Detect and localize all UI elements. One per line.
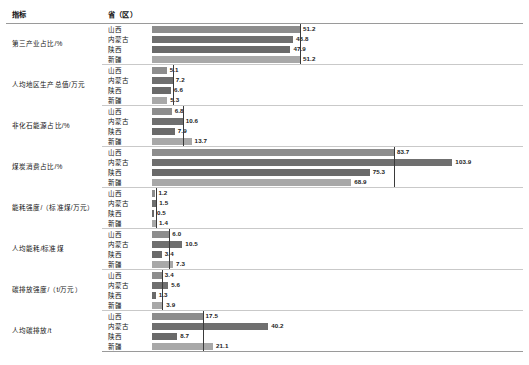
table-row: 碳排放强度/（t/万元）山西3.4 <box>6 270 523 281</box>
bar-cell: 68.9 <box>146 177 523 188</box>
indicator-label: 人均地区生产总值/万元 <box>6 65 102 106</box>
value-label: 10.6 <box>186 117 198 124</box>
value-label: 51.2 <box>303 55 315 62</box>
province-label: 内蒙古 <box>102 321 146 331</box>
province-label: 陕西 <box>102 290 146 300</box>
province-label: 陕西 <box>102 331 146 341</box>
province-label: 内蒙古 <box>102 280 146 290</box>
table-row: 人均地区生产总值/万元山西5.1 <box>6 65 523 76</box>
value-bar <box>152 241 182 248</box>
province-label: 山西 <box>102 229 146 240</box>
province-label: 山西 <box>102 188 146 199</box>
province-label: 陕西 <box>102 85 146 95</box>
column-header-indicator: 指标 <box>6 7 102 24</box>
value-bar <box>152 251 162 258</box>
value-bar <box>152 128 175 135</box>
value-label: 7.3 <box>176 260 185 267</box>
value-label: 51.2 <box>303 25 315 32</box>
province-label: 陕西 <box>102 249 146 259</box>
value-bar <box>152 159 452 166</box>
province-label: 新疆 <box>102 95 146 106</box>
province-label: 新疆 <box>102 136 146 147</box>
province-label: 内蒙古 <box>102 198 146 208</box>
province-label: 新疆 <box>102 54 146 65</box>
value-bar <box>152 56 300 63</box>
province-label: 新疆 <box>102 177 146 188</box>
table-row: 人均能耗/标准煤山西6.0 <box>6 229 523 240</box>
table-row: 人均碳排放/t山西17.5 <box>6 311 523 322</box>
value-label: 21.1 <box>216 342 228 349</box>
value-label: 5.1 <box>170 66 179 73</box>
value-bar <box>152 46 290 53</box>
value-bar <box>152 333 177 340</box>
value-label: 13.7 <box>195 137 207 144</box>
bar-cell: 1.4 <box>146 218 523 229</box>
province-label: 山西 <box>102 24 146 35</box>
reference-line <box>169 229 170 269</box>
province-label: 陕西 <box>102 208 146 218</box>
province-label: 内蒙古 <box>102 157 146 167</box>
province-label: 内蒙古 <box>102 75 146 85</box>
value-label: 3.4 <box>165 271 174 278</box>
province-label: 陕西 <box>102 126 146 136</box>
value-bar <box>152 97 167 104</box>
bar-cell: 3.4 <box>146 270 523 281</box>
value-label: 8.7 <box>180 332 189 339</box>
value-bar <box>152 282 168 289</box>
bar-cell: 103.9 <box>146 157 523 167</box>
value-label: 1.4 <box>159 219 168 226</box>
bar-cell: 6.8 <box>146 106 523 117</box>
indicator-label: 碳排放强度/（t/万元） <box>6 270 102 311</box>
value-label: 3.9 <box>166 301 175 308</box>
table-row: 第三产业占比/%山西51.2 <box>6 24 523 35</box>
bar-cell: 10.5 <box>146 239 523 249</box>
province-label: 陕西 <box>102 167 146 177</box>
province-label: 山西 <box>102 147 146 158</box>
province-label: 新疆 <box>102 259 146 270</box>
reference-line <box>162 270 163 310</box>
bar-cell: 1.3 <box>146 290 523 300</box>
value-label: 17.5 <box>206 312 218 319</box>
province-label: 山西 <box>102 311 146 322</box>
bar-cell: 0.5 <box>146 208 523 218</box>
value-bar <box>152 108 172 115</box>
bar-cell: 6.6 <box>146 85 523 95</box>
value-label: 68.9 <box>354 178 366 185</box>
table-row: 非化石能源占比/%山西6.8 <box>6 106 523 117</box>
value-bar <box>152 323 268 330</box>
value-label: 0.5 <box>157 209 166 216</box>
value-label: 75.3 <box>373 168 385 175</box>
value-bar <box>152 272 162 279</box>
value-label: 5.6 <box>171 281 180 288</box>
value-label: 83.7 <box>397 148 409 155</box>
value-bar <box>152 77 173 84</box>
value-bar <box>152 138 192 145</box>
province-label: 新疆 <box>102 300 146 311</box>
value-label: 10.5 <box>185 240 197 247</box>
province-label: 陕西 <box>102 44 146 54</box>
value-bar <box>152 179 351 186</box>
bar-cell: 5.6 <box>146 280 523 290</box>
value-bar <box>152 343 213 350</box>
reference-line <box>173 65 174 105</box>
value-bar <box>152 87 171 94</box>
indicator-label: 煤炭消费占比/% <box>6 147 102 188</box>
table-body: 第三产业占比/%山西51.2内蒙古48.8陕西47.9新疆51.2人均地区生产总… <box>6 24 523 352</box>
table-head: 指标 省（区） <box>6 7 523 24</box>
bar-cell: 17.5 <box>146 311 523 322</box>
value-bar <box>152 118 183 125</box>
bar-cell: 83.7 <box>146 147 523 158</box>
value-label: 5.3 <box>170 96 179 103</box>
reference-line <box>183 106 184 146</box>
province-label: 新疆 <box>102 218 146 229</box>
table-row: 煤炭消费占比/%山西83.7 <box>6 147 523 158</box>
bar-cell: 51.2 <box>146 54 523 65</box>
bar-cell: 75.3 <box>146 167 523 177</box>
value-bar <box>152 149 394 156</box>
bar-cell: 13.7 <box>146 136 523 147</box>
indicator-bar-table: 指标 省（区） 第三产业占比/%山西51.2内蒙古48.8陕西47.9新疆51.… <box>0 0 529 365</box>
bar-cell: 5.3 <box>146 95 523 106</box>
bar-cell: 10.6 <box>146 116 523 126</box>
province-label: 内蒙古 <box>102 239 146 249</box>
value-bar <box>152 26 300 33</box>
